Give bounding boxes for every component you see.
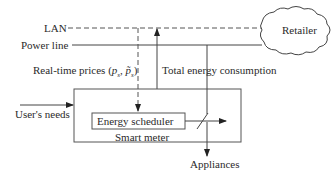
retailer-label: Retailer (282, 24, 317, 36)
prices-close-paren: ) (134, 64, 138, 76)
prices-text: Real-time prices ( (33, 64, 112, 76)
energy-scheduler-label: Energy scheduler (97, 115, 173, 127)
users-needs-label: User's needs (15, 108, 70, 120)
lan-label: LAN (44, 22, 67, 34)
appliances-label: Appliances (190, 158, 239, 170)
total-energy-consumption-label: Total energy consumption (162, 64, 277, 76)
power-line-label: Power line (21, 39, 68, 51)
real-time-prices-label: Real-time prices (ps, p̃s) (33, 64, 137, 81)
smart-meter-label: Smart meter (115, 131, 169, 143)
